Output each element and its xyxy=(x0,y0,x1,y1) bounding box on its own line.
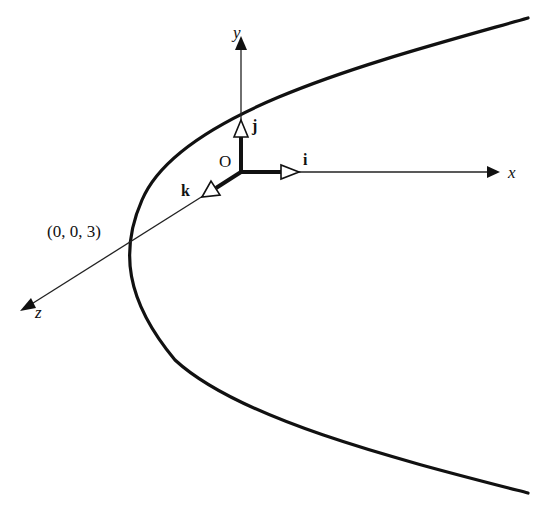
unit-vector-i-arrowhead-icon xyxy=(281,165,299,179)
x-axis-arrowhead-icon xyxy=(487,166,500,178)
coordinate-diagram: y x z i j k O (0, 0, 3) xyxy=(0,0,542,513)
unit-vector-k-label: k xyxy=(181,182,190,199)
unit-vector-i-label: i xyxy=(303,151,308,168)
z-axis-label: z xyxy=(34,303,42,322)
x-axis-label: x xyxy=(507,163,516,182)
unit-vector-j-arrowhead-icon xyxy=(234,120,248,137)
z-axis-arrowhead-icon xyxy=(20,298,36,311)
y-axis-label: y xyxy=(231,23,241,42)
parabola-curve xyxy=(130,18,528,493)
point-label: (0, 0, 3) xyxy=(47,222,101,241)
unit-vector-k xyxy=(216,172,241,188)
unit-vector-j-label: j xyxy=(251,117,257,135)
origin-label: O xyxy=(219,152,231,171)
